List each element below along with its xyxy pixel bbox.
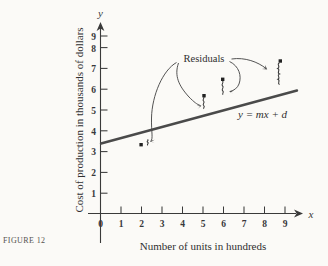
figure-caption: FIGURE 12 bbox=[3, 236, 46, 245]
figure-container: 1 2 3 4 5 6 7 8 9 1 2 3 4 5 6 7 8 9 0 y … bbox=[0, 0, 328, 266]
x-tick-label: 6 bbox=[221, 219, 226, 229]
residual-brace-x6 bbox=[222, 81, 223, 95]
x-tick-label: 7 bbox=[242, 219, 247, 229]
data-point bbox=[139, 143, 142, 146]
data-point bbox=[279, 59, 282, 62]
y-axis-variable-label: y bbox=[97, 7, 103, 19]
data-point bbox=[202, 94, 205, 97]
y-tick-label: 6 bbox=[91, 85, 96, 95]
y-tick-label: 2 bbox=[91, 168, 96, 178]
y-tick-label: 8 bbox=[91, 44, 96, 54]
x-tick-label: 1 bbox=[119, 219, 124, 229]
y-axis-title: Cost of production in thousands of dolla… bbox=[73, 27, 85, 212]
y-tick-labels: 1 2 3 4 5 6 7 8 9 bbox=[91, 32, 96, 199]
y-tick-label: 5 bbox=[91, 106, 96, 116]
y-tick-label: 9 bbox=[91, 32, 96, 42]
residual-brace-x2 bbox=[147, 140, 148, 146]
x-tick-marks bbox=[121, 207, 285, 214]
x-tick-label: 3 bbox=[160, 219, 165, 229]
residual-markers bbox=[147, 63, 279, 145]
x-tick-label: 8 bbox=[262, 219, 267, 229]
origin-label: 0 bbox=[98, 219, 103, 229]
y-axis bbox=[97, 22, 105, 243]
x-tick-labels: 1 2 3 4 5 6 7 8 9 bbox=[119, 219, 288, 229]
residuals-annotation-label: Residuals bbox=[184, 53, 225, 64]
y-tick-label: 1 bbox=[91, 189, 96, 199]
x-tick-label: 5 bbox=[201, 219, 206, 229]
x-axis bbox=[88, 209, 303, 217]
data-point bbox=[221, 78, 224, 81]
callout-curve-to-x5 bbox=[177, 63, 201, 106]
residual-brace-x5 bbox=[203, 97, 204, 109]
line-equation-label: y = mx + d bbox=[237, 108, 288, 120]
x-axis-title: Number of units in hundreds bbox=[140, 240, 266, 252]
callout-arrowhead-to-x5 bbox=[197, 105, 202, 109]
x-axis-variable-label: x bbox=[308, 208, 314, 220]
y-tick-marks bbox=[101, 36, 108, 193]
y-tick-label: 4 bbox=[91, 127, 96, 137]
data-points bbox=[139, 59, 282, 146]
y-tick-label: 3 bbox=[91, 147, 96, 157]
residuals-callout-arrows bbox=[150, 59, 267, 144]
y-tick-label: 7 bbox=[91, 64, 96, 74]
x-tick-label: 4 bbox=[180, 219, 185, 229]
x-tick-label: 9 bbox=[283, 219, 288, 229]
x-tick-label: 2 bbox=[139, 219, 144, 229]
residual-brace-x9 bbox=[278, 63, 280, 85]
callout-curve-to-x6 bbox=[230, 62, 241, 92]
scatter-plot: 1 2 3 4 5 6 7 8 9 1 2 3 4 5 6 7 8 9 0 y … bbox=[0, 0, 328, 266]
